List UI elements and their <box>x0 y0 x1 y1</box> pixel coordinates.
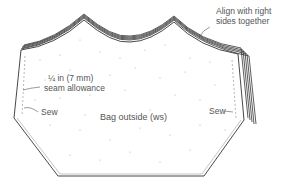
seam-allowance-label: ¼ in (7 mm) seam allowance <box>44 73 105 93</box>
align-label-line1: Align with right <box>216 6 271 16</box>
sew-left-label: Sew <box>41 107 58 117</box>
seam-label-line2: seam allowance <box>44 83 105 93</box>
bag-diagram <box>0 0 284 186</box>
align-label-line2: sides together <box>216 16 271 26</box>
align-label: Align with right sides together <box>216 6 271 26</box>
seam-label-line1: ¼ in (7 mm) <box>44 73 105 83</box>
panel-label: Bag outside (ws) <box>100 112 167 122</box>
sew-right-label: Sew <box>209 106 226 116</box>
